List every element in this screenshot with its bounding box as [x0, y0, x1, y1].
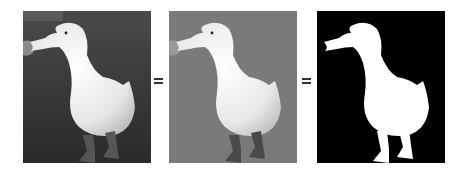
silhouette-mask-panel: [317, 11, 445, 163]
duck-silhouette-image: [317, 11, 445, 163]
equals-bar-bottom: [154, 82, 163, 84]
equals-sign: =: [154, 77, 163, 85]
equals-bar-bottom: [302, 82, 311, 84]
equals-sign: =: [302, 77, 311, 85]
equals-bar-top: [302, 78, 311, 80]
equals-bar-top: [154, 78, 163, 80]
original-photo-panel: [23, 11, 151, 163]
duck-photo-image: [23, 11, 151, 163]
gray-background-panel: [169, 11, 297, 163]
duck-gray-bg-image: [169, 11, 297, 163]
